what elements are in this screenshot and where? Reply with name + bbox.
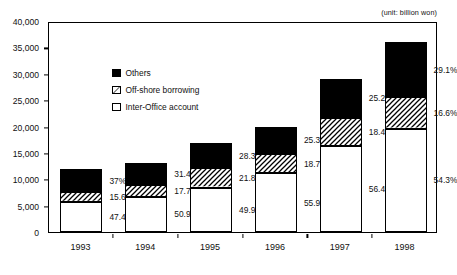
y-tick-label: 0: [34, 228, 39, 238]
x-tick-label: 1996: [265, 242, 285, 252]
x-tick-mark: [242, 234, 243, 238]
bar-segment-inter_office: [190, 188, 232, 232]
x-tick-label: 1998: [395, 242, 415, 252]
y-tick-label: 30,000: [13, 70, 39, 80]
legend-label-inter-office: Inter-Office account: [126, 102, 199, 112]
bar-segment-offshore: [320, 118, 362, 146]
unit-note: (unit: billion won): [381, 8, 437, 17]
y-tick-label: 10,000: [13, 175, 39, 185]
plot-frame: 47.4%15.6%37%50.9%17.7%31.4%49.9%21.8%28…: [48, 22, 437, 233]
x-tick-mark: [372, 234, 373, 238]
y-tick-label: 5,000: [17, 202, 39, 212]
bar-segment-offshore: [190, 168, 232, 187]
y-tick-mark: [44, 127, 48, 128]
hatch-pattern-icon: [61, 193, 101, 201]
y-tick-label: 25,000: [13, 96, 39, 106]
bar-segment-inter_office: [320, 146, 362, 232]
bar-group: 54.3%16.6%29.1%: [385, 21, 427, 232]
y-tick-mark: [44, 101, 48, 102]
bar-segment-inter_office: [385, 129, 427, 232]
legend-item-others: Others: [112, 65, 262, 81]
bar-group: 47.4%15.6%37%: [60, 21, 102, 232]
bar-group: 49.9%21.8%28.3%: [190, 21, 232, 232]
legend-label-others: Others: [126, 68, 151, 78]
bar-group: 55.9%18.7%25.3%: [255, 21, 297, 232]
bar-segment-inter_office: [60, 202, 102, 232]
x-tick-label: 1995: [200, 242, 220, 252]
x-tick-mark: [112, 234, 113, 238]
hatch-pattern-icon: [126, 186, 166, 196]
bar-segment-others: [255, 127, 297, 154]
bar-segment-others: [125, 163, 167, 185]
hatch-pattern-icon: [321, 119, 361, 145]
bar-group: 56.4%18.4%25.2%: [320, 21, 362, 232]
hatch-pattern-icon: [386, 98, 426, 128]
bar-group: 50.9%17.7%31.4%: [125, 21, 167, 232]
y-tick-label: 20,000: [13, 123, 39, 133]
x-tick-label: 1997: [330, 242, 350, 252]
bar-segment-others: [385, 42, 427, 97]
y-tick-label: 35,000: [13, 43, 39, 53]
legend-item-offshore: Off-shore borrowing: [112, 82, 262, 98]
legend-label-offshore: Off-shore borrowing: [126, 85, 200, 95]
y-tick-mark: [44, 48, 48, 49]
x-tick-mark: [177, 234, 178, 238]
bar-segment-others: [60, 169, 102, 192]
hatched-square-icon: [112, 86, 121, 95]
y-tick-mark: [44, 153, 48, 154]
bar-segment-others: [190, 143, 232, 168]
bar-segment-inter_office: [255, 173, 297, 232]
percent-label-inter_office: 54.3%: [434, 175, 457, 185]
y-axis: 05,00010,00015,00020,00025,00030,00035,0…: [0, 22, 44, 233]
white-square-icon: [112, 103, 121, 112]
y-tick-label: 40,000: [13, 17, 39, 27]
bar-segment-offshore: [255, 154, 297, 174]
solid-black-square-icon: [112, 69, 121, 78]
hatch-pattern-icon: [191, 169, 231, 186]
x-axis: 199319941995199619971998: [48, 238, 437, 254]
percent-label-offshore: 16.6%: [434, 108, 457, 118]
bar-segment-inter_office: [125, 197, 167, 232]
y-tick-mark: [44, 180, 48, 181]
plot-area: 47.4%15.6%37%50.9%17.7%31.4%49.9%21.8%28…: [49, 23, 436, 232]
bar-segment-offshore: [60, 192, 102, 202]
bar-segment-offshore: [385, 97, 427, 129]
percent-label-others: 29.1%: [434, 65, 457, 75]
percent-label-others: 37%: [109, 176, 126, 186]
chart-legend: Others Off-shore borrowing Inter-Office …: [112, 65, 262, 116]
y-tick-label: 15,000: [13, 149, 39, 159]
y-tick-mark: [44, 74, 48, 75]
y-tick-mark: [44, 206, 48, 207]
x-tick-label: 1993: [70, 242, 90, 252]
bar-segment-others: [320, 79, 362, 118]
hatch-pattern-icon: [256, 155, 296, 173]
bar-segment-offshore: [125, 185, 167, 197]
legend-item-inter-office: Inter-Office account: [112, 99, 262, 115]
x-tick-mark: [307, 234, 308, 238]
x-tick-label: 1994: [135, 242, 155, 252]
